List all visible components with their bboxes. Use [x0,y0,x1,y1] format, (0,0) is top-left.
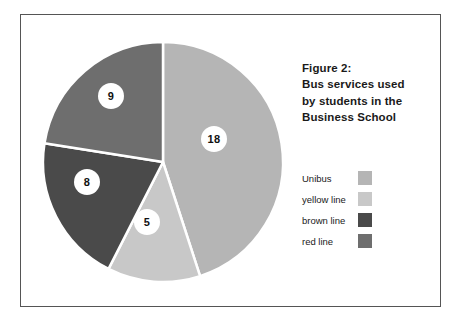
figure-title-line-2: Bus services used [302,76,434,92]
legend-color-swatch [358,234,372,248]
pie-slice-value-brown-line: 8 [74,169,100,195]
chart-legend: Unibusyellow linebrown linered line [302,168,434,252]
legend-item-label: red line [302,237,364,247]
legend-color-swatch [358,192,372,206]
legend-item-brown-line[interactable]: brown line [302,210,434,231]
figure-title: Figure 2: Bus services used by students … [302,60,434,125]
pie-slice-value-red-line: 9 [98,83,124,109]
figure-title-line-1: Figure 2: [302,60,434,76]
legend-item-label: Unibus [302,174,364,184]
legend-item-label: brown line [302,216,364,226]
legend-item-label: yellow line [302,195,364,205]
legend-color-swatch [358,213,372,227]
legend-item-red-line[interactable]: red line [302,231,434,252]
pie-slice-value-Unibus: 18 [201,126,227,152]
legend-item-Unibus[interactable]: Unibus [302,168,434,189]
figure-title-line-4: Business School [302,109,434,125]
pie-chart [0,0,463,321]
figure-title-line-3: by students in the [302,93,434,109]
pie-slice-value-yellow-line: 5 [134,209,160,235]
legend-item-yellow-line[interactable]: yellow line [302,189,434,210]
legend-color-swatch [358,171,372,185]
pie-slice-group [43,42,283,282]
